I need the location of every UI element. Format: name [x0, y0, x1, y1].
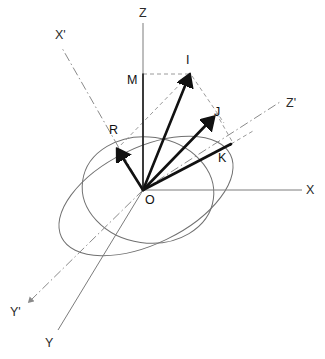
axis-label-x-prime: X': [55, 28, 66, 42]
point-label-m: M: [127, 73, 137, 87]
axis-label-z-prime: Z': [286, 96, 296, 110]
vector-o-r: [121, 155, 143, 190]
axis-label-x: X: [306, 183, 315, 197]
axis-label-y: Y: [45, 336, 54, 350]
axis-label-y-prime: Y': [10, 305, 21, 319]
diagram-canvas: Z X Y X' Y' Z' O I M R J K: [0, 0, 325, 359]
point-label-k: K: [218, 151, 227, 165]
vectors-group: [121, 74, 231, 190]
axis-z-prime-line: [143, 102, 280, 190]
point-label-r: R: [109, 123, 118, 137]
vector-o-i: [143, 81, 187, 190]
point-label-o: O: [145, 193, 155, 207]
axis-label-z: Z: [139, 6, 147, 20]
vector-o-j: [143, 122, 209, 190]
point-label-i: I: [186, 53, 189, 67]
primary-axes-group: [58, 23, 302, 330]
axis-y-line: [58, 190, 143, 330]
construction-line-k-zprime: [231, 131, 253, 144]
vector-diagram-svg: Z X Y X' Y' Z' O I M R J K: [0, 0, 325, 359]
primed-axes-group: [30, 48, 280, 301]
point-label-j: J: [214, 105, 220, 119]
